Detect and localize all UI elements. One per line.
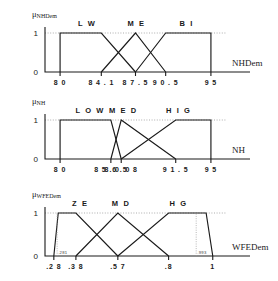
x-tick-label: 8 4 . 1 bbox=[88, 79, 114, 86]
set-label-low: L O W bbox=[75, 106, 105, 115]
x-tick-label: .8 bbox=[165, 263, 173, 270]
chart-canvas: 8 08 5 . 0 58 6 . 0 89 1 . 59 501L O WM … bbox=[0, 90, 278, 183]
fuzzy-chart-nh: 8 08 5 . 0 58 6 . 0 89 1 . 59 501L O WM … bbox=[0, 90, 278, 183]
set-label-hig: H I G bbox=[166, 106, 192, 115]
axes bbox=[45, 114, 250, 159]
chart-canvas: 8 08 4 . 18 7 . 59 0 . 59 501L WM EB INH… bbox=[0, 0, 278, 95]
annotation-label: .281 bbox=[58, 250, 68, 255]
x-tick-label: .2 8 bbox=[46, 263, 61, 270]
axes bbox=[45, 27, 250, 72]
membership-curve-bi bbox=[136, 33, 211, 72]
y-tick-label: 0 bbox=[34, 155, 39, 164]
x-tick-label: 9 1 . 5 bbox=[163, 166, 189, 173]
membership-curve-md bbox=[76, 213, 169, 256]
y-tick-label: 1 bbox=[34, 29, 39, 38]
set-label-md: M D bbox=[112, 199, 131, 208]
x-tick-label: 9 0 . 5 bbox=[153, 79, 179, 86]
set-label-hg: H G bbox=[169, 199, 187, 208]
x-axis-label: WFEDem bbox=[232, 242, 269, 252]
x-tick-label: 1 bbox=[210, 263, 215, 270]
x-axis-label: NH bbox=[232, 145, 245, 155]
y-tick-label: 1 bbox=[34, 116, 39, 125]
fuzzy-chart-nhdem: 8 08 4 . 18 7 . 59 0 . 59 501L WM EB INH… bbox=[0, 0, 278, 95]
x-axis-label: NHDem bbox=[232, 58, 263, 68]
set-label-lw: L W bbox=[78, 19, 96, 28]
membership-curve-med bbox=[111, 120, 176, 159]
x-tick-label: 8 0 bbox=[54, 166, 66, 173]
y-tick-label: 1 bbox=[34, 209, 39, 218]
annotation-label: .993 bbox=[197, 250, 207, 255]
membership-curve-hig bbox=[121, 120, 211, 159]
x-tick-label: .5 7 bbox=[110, 263, 125, 270]
y-axis-label: μWFEDem bbox=[32, 189, 61, 199]
set-label-me: M E bbox=[127, 19, 145, 28]
x-tick-label: 8 7 . 5 bbox=[123, 79, 149, 86]
x-tick-label: 8 6 . 0 8 bbox=[105, 166, 138, 173]
set-label-bi: B I bbox=[180, 19, 194, 28]
x-tick-label: 9 5 bbox=[205, 166, 217, 173]
membership-curve-lw bbox=[60, 33, 135, 72]
y-axis-label: μNHDem bbox=[32, 9, 57, 19]
y-tick-label: 0 bbox=[34, 68, 39, 77]
y-axis-label: μNH bbox=[32, 96, 46, 106]
x-tick-label: 9 5 bbox=[205, 79, 217, 86]
set-label-ze: Z E bbox=[72, 199, 88, 208]
set-label-med: M E D bbox=[109, 106, 138, 115]
x-tick-label: .3 8 bbox=[68, 263, 83, 270]
membership-curve-me bbox=[101, 33, 165, 72]
chart-canvas: .2 8.3 8.5 7.8101Z EM DH G.281.993WFEDem… bbox=[0, 181, 278, 281]
x-tick-label: 8 0 bbox=[54, 79, 66, 86]
fuzzy-chart-wfedem: .2 8.3 8.5 7.8101Z EM DH G.281.993WFEDem… bbox=[0, 181, 278, 281]
y-tick-label: 0 bbox=[34, 252, 39, 261]
